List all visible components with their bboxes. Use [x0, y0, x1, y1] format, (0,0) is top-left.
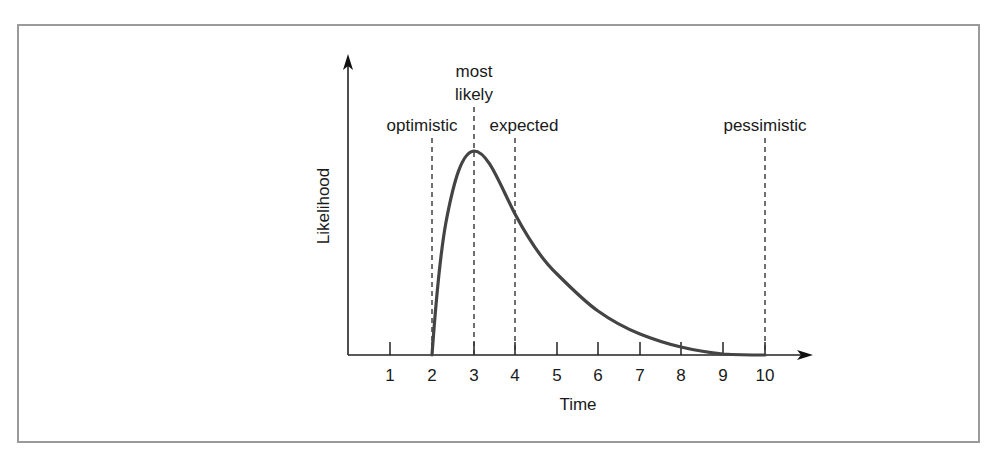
- x-tick-labels: 1 2 3 4 5 6 7 8 9 10: [385, 366, 774, 385]
- tick-label: 2: [427, 366, 436, 385]
- tick-label: 4: [510, 366, 519, 385]
- tick-label: 8: [676, 366, 685, 385]
- tick-label: 3: [469, 366, 478, 385]
- x-axis-title: Time: [559, 395, 596, 414]
- y-axis-title: Likelihood: [314, 168, 333, 245]
- tick-label: 7: [635, 366, 644, 385]
- optimistic-label: optimistic: [387, 116, 458, 135]
- most-likely-label-line1: most: [456, 62, 493, 81]
- likelihood-curve: [432, 151, 765, 355]
- expected-label: expected: [490, 116, 559, 135]
- tick-label: 1: [385, 366, 394, 385]
- tick-label: 9: [718, 366, 727, 385]
- pessimistic-label: pessimistic: [723, 116, 807, 135]
- tick-label: 6: [593, 366, 602, 385]
- tick-label: 5: [552, 366, 561, 385]
- most-likely-label-line2: likely: [455, 85, 493, 104]
- reference-lines: [432, 107, 765, 355]
- tick-label: 10: [756, 366, 775, 385]
- likelihood-chart: 1 2 3 4 5 6 7 8 9 10 Time Likelihood opt…: [0, 0, 996, 463]
